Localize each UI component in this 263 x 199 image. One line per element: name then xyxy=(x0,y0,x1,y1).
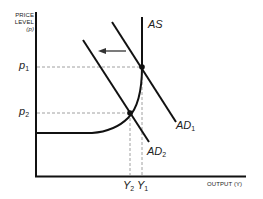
y1-sub: 1 xyxy=(144,185,148,192)
ad1-label: AD1 xyxy=(176,119,195,132)
ad-as-diagram xyxy=(0,0,263,199)
p1-label: p1 xyxy=(19,59,29,72)
y-axis-title: PRICE LEVEL (p) xyxy=(8,12,34,33)
ad2-label: AD2 xyxy=(147,145,166,158)
left-arrow-icon xyxy=(98,48,106,54)
ad1-sub: 1 xyxy=(191,125,195,132)
p1-sub: 1 xyxy=(25,65,29,72)
ad1-curve xyxy=(112,22,176,122)
equilibrium-point-2 xyxy=(127,110,133,116)
x-axis-title: OUTPUT (Y) xyxy=(207,181,242,188)
y-axis-title-line3: (p) xyxy=(8,26,34,33)
p2-sub: 2 xyxy=(25,111,29,118)
y2-sub: 2 xyxy=(130,185,134,192)
p2-label: p2 xyxy=(19,105,29,118)
as-curve xyxy=(36,17,142,133)
ad1-base: AD xyxy=(176,119,191,131)
equilibrium-point-1 xyxy=(139,64,145,70)
y-axis-title-line1: PRICE xyxy=(8,12,34,19)
y2-label: Y2 xyxy=(123,179,134,192)
y1-label: Y1 xyxy=(137,179,148,192)
y-axis-title-line2: LEVEL xyxy=(8,19,34,26)
ad2-sub: 2 xyxy=(162,151,166,158)
as-label: AS xyxy=(148,18,163,30)
ad2-base: AD xyxy=(147,145,162,157)
